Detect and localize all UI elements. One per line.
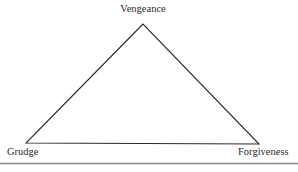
vertex-label-forgiveness: Forgiveness (238, 146, 289, 158)
triangle-shape (26, 24, 259, 144)
vertex-label-grudge: Grudge (7, 146, 39, 158)
triangle-diagram: Vengeance Grudge Forgiveness (0, 0, 298, 172)
vertex-label-vengeance: Vengeance (120, 3, 165, 15)
